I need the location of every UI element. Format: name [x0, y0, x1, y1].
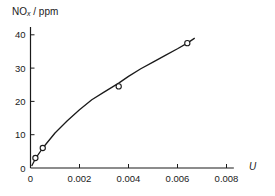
markers-layer — [33, 41, 190, 161]
y-tick-label: 0 — [20, 163, 25, 174]
y-tick-label: 30 — [15, 63, 26, 74]
axes: 01020304000.0020.0040.0060.008 — [15, 27, 238, 184]
data-point-marker — [185, 41, 190, 46]
nox-vs-u-chart: 01020304000.0020.0040.0060.008 — [0, 0, 275, 196]
data-point-marker — [40, 145, 45, 150]
x-tick-label: 0.006 — [166, 173, 190, 184]
curve-layer — [32, 38, 195, 166]
x-tick-label: 0.004 — [117, 173, 141, 184]
x-tick-label: 0.002 — [68, 173, 92, 184]
x-tick-label: 0 — [28, 173, 33, 184]
fitted-curve — [32, 38, 195, 166]
data-point-marker — [116, 84, 121, 89]
y-tick-label: 20 — [15, 96, 26, 107]
y-tick-label: 40 — [15, 29, 26, 40]
x-tick-label: 0.008 — [215, 173, 239, 184]
data-point-marker — [33, 155, 38, 160]
y-tick-label: 10 — [15, 129, 26, 140]
